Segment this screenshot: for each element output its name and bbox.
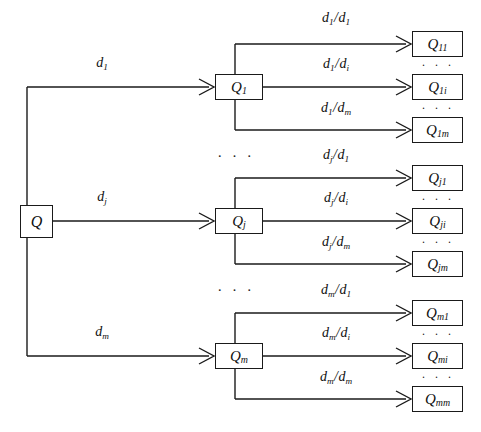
node-qmm[interactable]: Qmm xyxy=(412,386,463,412)
node-q1-label: Q1 xyxy=(231,80,247,95)
node-root-q[interactable]: Q xyxy=(20,205,53,238)
ellipsis-between-q1-and-qj: · · · xyxy=(217,149,255,164)
edge-label-dj-base: d xyxy=(97,189,104,204)
node-qjm[interactable]: Qjm xyxy=(412,251,463,277)
node-q11-label: Q11 xyxy=(428,37,448,52)
edge-label-dj-over-d1: dj/d1 xyxy=(323,148,349,162)
hierarchical-tree-diagram: Q d1 dj dm Q1 Qj Qm · · · · · · d1/d1 d1… xyxy=(0,0,481,432)
ellipsis-between-qji-and-qjm: · · · xyxy=(422,236,455,248)
node-qmm-label: Qmm xyxy=(425,392,450,407)
edge-label-d1-sub: 1 xyxy=(103,62,108,72)
edge-label-dm-over-di: dm/di xyxy=(322,326,350,340)
ellipsis-between-qj1-and-qji: · · · xyxy=(422,193,455,205)
ellipsis-between-q11-and-q1i: · · · xyxy=(422,59,455,71)
edge-label-d1-over-di: d1/di xyxy=(323,57,349,71)
node-qji[interactable]: Qji xyxy=(412,208,463,234)
node-qm1-label: Qm1 xyxy=(426,306,449,321)
node-qj1[interactable]: Qj1 xyxy=(412,165,463,191)
node-qm1[interactable]: Qm1 xyxy=(412,300,463,326)
node-q1i-label: Q1i xyxy=(428,80,447,95)
edge-label-d1-over-dm: d1/dm xyxy=(321,101,351,115)
node-q1m[interactable]: Q1m xyxy=(412,117,463,143)
node-qmi[interactable]: Qmi xyxy=(412,343,463,369)
edge-label-dm-over-dm: dm/dm xyxy=(320,370,352,384)
edge-label-d1-base: d xyxy=(96,55,103,70)
edge-label-d1-over-d1: d1/d1 xyxy=(322,11,350,25)
edge-label-dm-sub: m xyxy=(102,331,109,341)
node-qj1-label: Qj1 xyxy=(428,171,447,186)
edge-label-d1: d1 xyxy=(96,56,108,70)
node-q1i[interactable]: Q1i xyxy=(412,74,463,100)
edge-label-dj-over-dm: dj/dm xyxy=(322,235,350,249)
node-qmi-label: Qmi xyxy=(427,349,448,364)
node-qjm-label: Qjm xyxy=(427,257,448,272)
edge-label-dj-sub: j xyxy=(104,196,107,206)
node-q1m-label: Q1m xyxy=(426,123,449,138)
node-q11[interactable]: Q11 xyxy=(412,31,463,57)
ellipsis-between-qm1-and-qmi: · · · xyxy=(422,328,455,340)
edge-label-dj: dj xyxy=(97,190,107,204)
node-qm-label: Qm xyxy=(230,349,248,364)
node-q1[interactable]: Q1 xyxy=(215,74,263,100)
ellipsis-between-qmi-and-qmm: · · · xyxy=(422,371,455,383)
node-qj[interactable]: Qj xyxy=(215,208,263,234)
node-qm[interactable]: Qm xyxy=(215,343,263,369)
node-qji-label: Qji xyxy=(429,214,445,229)
edge-label-dm-over-d1: dm/d1 xyxy=(321,283,351,297)
edge-label-dm: dm xyxy=(95,325,109,339)
edge-label-dm-base: d xyxy=(95,324,102,339)
node-qj-label: Qj xyxy=(232,214,246,229)
ellipsis-between-q1i-and-q1m: · · · xyxy=(422,102,455,114)
node-root-q-label: Q xyxy=(31,214,43,230)
ellipsis-between-qj-and-qm: · · · xyxy=(217,283,255,298)
edge-label-dj-over-di: dj/di xyxy=(324,191,348,205)
